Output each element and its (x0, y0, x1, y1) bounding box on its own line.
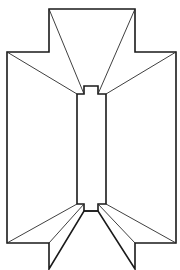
diagram-canvas (0, 0, 180, 270)
outer-outline (7, 9, 176, 269)
fold-line (98, 9, 135, 94)
fold-line (49, 9, 84, 94)
net-diagram (0, 0, 180, 270)
fold-line (106, 52, 176, 94)
inner-slot (77, 86, 106, 211)
fold-lines (7, 9, 176, 243)
fold-line (7, 52, 77, 94)
